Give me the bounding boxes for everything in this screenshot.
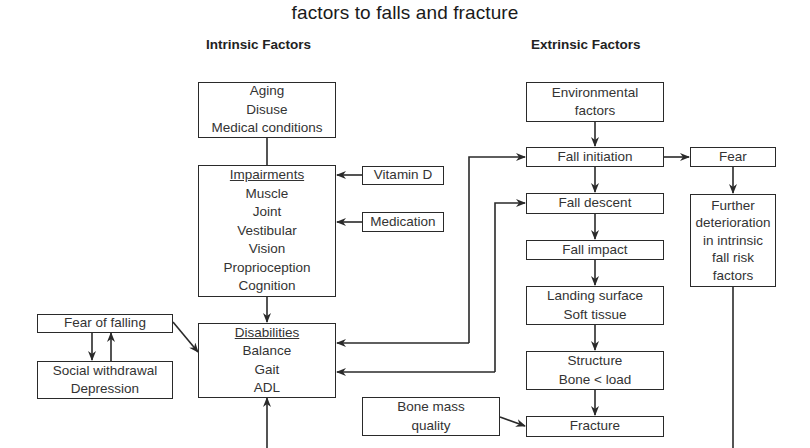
bone-mass-quality-box: Bone mass quality — [362, 397, 500, 436]
environmental-line-1: Environmental — [552, 84, 638, 103]
vitamin-d-box: Vitamin D — [362, 166, 444, 185]
impairment-cognition: Cognition — [238, 277, 295, 296]
impairment-muscle: Muscle — [246, 185, 289, 204]
fall-impact-box: Fall impact — [526, 240, 664, 260]
fall-impact-label: Fall impact — [562, 241, 627, 260]
further-line-3: in intrinsic — [703, 232, 763, 250]
environmental-line-2: factors — [575, 102, 616, 121]
depression-label: Depression — [71, 380, 139, 399]
impairment-vestibular: Vestibular — [237, 222, 296, 241]
fear-of-falling-label: Fear of falling — [64, 314, 146, 333]
landing-surface-label: Landing surface — [547, 287, 643, 306]
further-line-5: factors — [713, 267, 754, 285]
fracture-label: Fracture — [570, 417, 620, 436]
fall-initiation-label: Fall initiation — [557, 148, 632, 167]
impairment-vision: Vision — [249, 240, 286, 259]
fear-label: Fear — [719, 148, 747, 167]
disability-balance: Balance — [243, 342, 292, 361]
impairments-header: Impairments — [230, 166, 304, 185]
fear-box: Fear — [690, 147, 776, 167]
structure-box: Structure Bone < load — [526, 351, 664, 390]
disabilities-header: Disabilities — [235, 324, 300, 343]
fall-initiation-box: Fall initiation — [526, 147, 664, 167]
fall-descent-box: Fall descent — [526, 193, 664, 214]
fear-of-falling-box: Fear of falling — [37, 314, 173, 333]
social-withdrawal-box: Social withdrawal Depression — [37, 361, 173, 399]
impairment-joint: Joint — [253, 203, 282, 222]
bone-load-label: Bone < load — [559, 371, 631, 390]
fracture-box: Fracture — [526, 416, 664, 437]
medication-box: Medication — [362, 212, 444, 232]
further-line-4: fall risk — [712, 249, 754, 267]
structure-label: Structure — [568, 352, 623, 371]
medication-label: Medication — [370, 213, 435, 232]
further-line-1: Further — [711, 197, 755, 215]
landing-surface-box: Landing surface Soft tissue — [526, 286, 664, 325]
causes-box: Aging Disuse Medical conditions — [198, 82, 336, 138]
bone-mass-label: Bone mass — [397, 398, 465, 417]
further-line-2: deterioration — [695, 214, 770, 232]
quality-label: quality — [411, 417, 450, 436]
impairments-box: Impairments Muscle Joint Vestibular Visi… — [198, 165, 336, 297]
environmental-factors-box: Environmental factors — [526, 82, 664, 122]
disability-gait: Gait — [255, 361, 280, 380]
cause-aging: Aging — [250, 82, 285, 101]
cause-medical-conditions: Medical conditions — [211, 119, 322, 138]
cause-disuse: Disuse — [246, 101, 287, 120]
social-withdrawal-label: Social withdrawal — [53, 362, 157, 381]
disabilities-box: Disabilities Balance Gait ADL — [198, 323, 336, 398]
impairment-proprioception: Proprioception — [223, 259, 310, 278]
soft-tissue-label: Soft tissue — [563, 306, 626, 325]
fall-descent-label: Fall descent — [559, 194, 632, 213]
vitamin-d-label: Vitamin D — [374, 166, 432, 185]
further-deterioration-box: Further deterioration in intrinsic fall … — [690, 194, 776, 287]
disability-adl: ADL — [254, 379, 280, 398]
